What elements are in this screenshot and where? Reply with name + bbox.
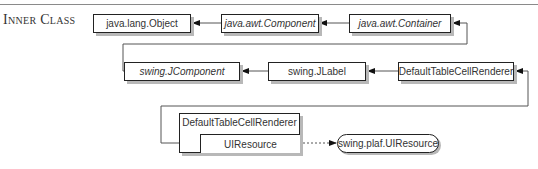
class-box-component: java.awt.Component (221, 14, 319, 33)
class-label: swing.JLabel (288, 66, 346, 77)
class-label: java.awt.Component (224, 18, 315, 29)
interface-uiresource: swing.plaf.UIResource (337, 134, 439, 153)
class-label: swing.JComponent (139, 66, 224, 77)
class-box-jcomponent: swing.JComponent (124, 62, 240, 81)
class-label: java.awt.Container (359, 18, 442, 29)
inner-class-box: DefaultTableCellRenderer UIResource (179, 113, 300, 153)
class-label: java.lang.Object (106, 18, 178, 29)
class-box-jlabel: swing.JLabel (268, 62, 366, 81)
class-box-container: java.awt.Container (349, 14, 451, 33)
class-box-default-table-cell-renderer: DefaultTableCellRenderer (398, 62, 514, 81)
class-box-object: java.lang.Object (93, 14, 191, 33)
inner-class-label: UIResource (224, 139, 277, 150)
outer-class-label: DefaultTableCellRenderer (180, 117, 299, 128)
class-label: DefaultTableCellRenderer (399, 66, 514, 77)
interface-label: swing.plaf.UIResource (338, 138, 438, 149)
inner-class-uiresource: UIResource (200, 134, 300, 153)
